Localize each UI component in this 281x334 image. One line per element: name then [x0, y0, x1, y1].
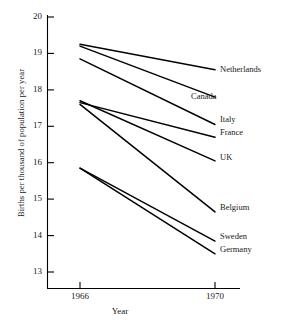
y-tick-label-20: 20	[24, 11, 42, 21]
series-label-sweden: Sweden	[220, 231, 247, 241]
series-line-sweden	[80, 168, 215, 241]
x-axis-ticks	[80, 282, 215, 289]
y-tick-label-18: 18	[24, 84, 42, 94]
chart-plot-area	[0, 0, 281, 334]
series-label-canada: Canada	[191, 91, 217, 101]
y-tick-label-17: 17	[24, 120, 42, 130]
x-tick-label-1970: 1970	[195, 291, 235, 301]
series-line-uk	[80, 101, 215, 161]
x-axis-title: Year	[0, 306, 240, 316]
series-label-france: France	[220, 127, 243, 137]
series-line-germany	[80, 168, 215, 254]
y-tick-label-13: 13	[24, 266, 42, 276]
series-line-netherlands	[80, 44, 215, 70]
y-tick-label-14: 14	[24, 230, 42, 240]
series-label-germany: Germany	[220, 244, 252, 254]
series-line-canada	[80, 46, 215, 97]
y-tick-label-16: 16	[24, 157, 42, 167]
series-lines	[80, 44, 215, 253]
series-label-uk: UK	[220, 152, 232, 162]
y-tick-label-19: 19	[24, 47, 42, 57]
series-label-belgium: Belgium	[220, 202, 249, 212]
y-axis-ticks	[48, 17, 55, 272]
series-label-netherlands: Netherlands	[220, 64, 261, 74]
x-tick-label-1966: 1966	[60, 291, 100, 301]
y-tick-label-15: 15	[24, 193, 42, 203]
birth-rate-line-chart: 20 19 18 17 16 15 14 13 1966 1970 Births…	[0, 0, 281, 334]
y-axis-title: Births per thousand of population per ye…	[16, 38, 26, 248]
series-label-italy: Italy	[220, 114, 236, 124]
